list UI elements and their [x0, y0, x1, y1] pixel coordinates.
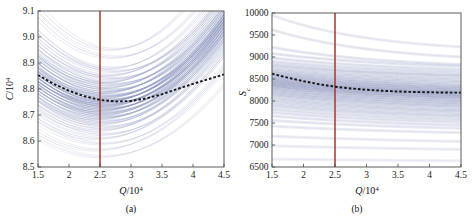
x-tick-label: 4.5	[455, 170, 467, 180]
cost-sample-curves	[38, 0, 224, 158]
y-tick-label: 10000	[245, 8, 269, 18]
x-tick-label: 4	[191, 170, 196, 180]
panel-caption: (a)	[126, 204, 137, 215]
sample-curve	[272, 135, 461, 140]
sample-curve	[272, 14, 461, 46]
reorder-point-sample-curves	[272, 14, 461, 162]
x-tick-label: 3.5	[392, 170, 404, 180]
x-axis-title: Q/104	[119, 185, 143, 197]
sample-curve	[272, 147, 461, 151]
y-tick-label: 8.8	[23, 84, 35, 94]
y-tick-label: 6500	[250, 162, 269, 172]
x-tick-label: 4	[427, 170, 432, 180]
figure-container: 1.522.533.544.58.58.68.78.88.99.09.1Q/10…	[0, 0, 474, 224]
y-tick-label: 8.5	[23, 162, 35, 172]
y-tick-label: 8.6	[23, 136, 35, 146]
y-axis-title: C/104	[4, 77, 16, 100]
panel-a: 1.522.533.544.58.58.68.78.88.99.09.1Q/10…	[0, 0, 237, 224]
y-tick-label: 8500	[250, 74, 269, 84]
y-tick-label: 9000	[250, 52, 269, 62]
x-tick-label: 2	[301, 170, 306, 180]
sample-curve	[272, 136, 461, 141]
x-tick-label: 2.5	[94, 170, 106, 180]
panel-a-plot: 1.522.533.544.58.58.68.78.88.99.09.1Q/10…	[0, 0, 237, 224]
x-tick-label: 3	[364, 170, 369, 180]
y-tick-label: 8000	[250, 96, 269, 106]
x-tick-label: 3.5	[156, 170, 168, 180]
panel-caption: (b)	[351, 204, 362, 215]
x-tick-label: 2	[67, 170, 72, 180]
x-tick-label: 3	[129, 170, 134, 180]
y-tick-label: 9.0	[23, 32, 35, 42]
x-axis-title: Q/104	[355, 185, 379, 197]
panel-b-plot: 1.522.533.544.56500700075008000850090009…	[237, 0, 474, 224]
y-tick-label: 7000	[250, 140, 269, 150]
sample-curve	[272, 16, 461, 48]
y-tick-label: 9.1	[23, 6, 35, 16]
x-tick-label: 4.5	[218, 170, 230, 180]
panel-b: 1.522.533.544.56500700075008000850090009…	[237, 0, 474, 224]
y-tick-label: 7500	[250, 118, 269, 128]
y-tick-label: 8.9	[23, 58, 35, 68]
y-axis-title: Sc	[237, 88, 251, 96]
sample-curve	[272, 31, 461, 58]
y-tick-label: 9500	[250, 30, 269, 40]
x-tick-label: 2.5	[329, 170, 341, 180]
y-tick-label: 8.7	[23, 110, 35, 120]
sample-curve	[272, 15, 461, 47]
